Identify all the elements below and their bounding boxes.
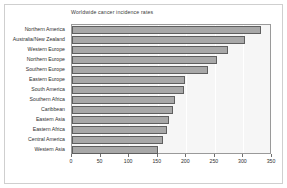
y-axis-tick-label: Northern America <box>25 26 65 32</box>
y-axis-tick-label: Southern Europe <box>26 66 65 72</box>
x-axis-tick-mark <box>271 154 272 157</box>
x-axis-tick-mark <box>71 154 72 157</box>
chart-figure: Worldwide cancer incidence rates Norther… <box>0 0 287 188</box>
bar <box>72 86 184 94</box>
y-axis-tick-label: Australia/New Zealand <box>13 36 65 42</box>
bar <box>72 56 217 64</box>
y-axis-tick-label: Southern Africa <box>30 96 65 102</box>
x-axis-tick-label: 150 <box>152 158 161 164</box>
x-axis-tick-label: 250 <box>210 158 219 164</box>
chart-title: Worldwide cancer incidence rates <box>71 9 153 15</box>
bar <box>72 26 261 34</box>
y-axis-category-labels: Northern AmericaAustralia/New ZealandWes… <box>0 24 68 154</box>
y-axis-tick-label: Northern Europe <box>27 56 65 62</box>
x-axis-tick-label: 200 <box>181 158 190 164</box>
bar <box>72 36 245 44</box>
x-axis-tick-label: 50 <box>97 158 103 164</box>
x-axis-tick-mark <box>157 154 158 157</box>
y-axis-tick-label: Eastern Asia <box>36 116 65 122</box>
x-axis-tick-label: 350 <box>267 158 276 164</box>
bar <box>72 146 158 154</box>
bar <box>72 96 175 104</box>
x-axis-tick-label: 100 <box>124 158 133 164</box>
bar <box>72 66 208 74</box>
bar <box>72 76 185 84</box>
y-axis-tick-label: Eastern Africa <box>33 126 65 132</box>
x-axis-tick-label: 300 <box>238 158 247 164</box>
bar <box>72 46 228 54</box>
y-axis-tick-label: Caribbean <box>41 106 65 112</box>
y-axis-tick-label: Eastern Europe <box>29 76 65 82</box>
bar-series <box>72 25 270 153</box>
plot-area <box>71 24 271 154</box>
bar <box>72 126 167 134</box>
y-axis-tick-label: Central America <box>28 136 65 142</box>
x-axis-tick-mark <box>214 154 215 157</box>
bar <box>72 106 173 114</box>
y-axis-tick-label: South America <box>31 86 65 92</box>
x-axis-tick-mark <box>242 154 243 157</box>
x-axis-tick-mark <box>128 154 129 157</box>
bar <box>72 136 163 144</box>
x-axis-tick-mark <box>185 154 186 157</box>
y-axis-tick-label: Western Europe <box>28 46 65 52</box>
x-axis-tick-label: 0 <box>70 158 73 164</box>
x-axis: 050100150200250300350 <box>71 154 271 176</box>
x-axis-tick-mark <box>100 154 101 157</box>
bar <box>72 116 169 124</box>
y-axis-tick-label: Western Asia <box>35 146 65 152</box>
